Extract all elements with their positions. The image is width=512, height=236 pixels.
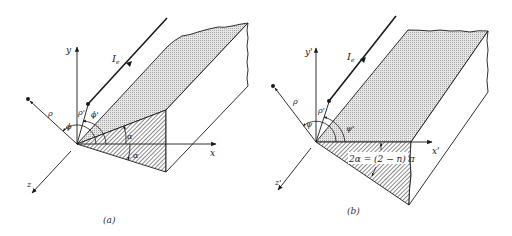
panel-a: y x z ρ ρ' ϕ ϕ' α α Ie (a) — [26, 18, 248, 225]
caption-a: (a) — [103, 215, 116, 225]
z-prime-axis-label: z' — [274, 178, 281, 187]
caption-b: (b) — [347, 206, 360, 216]
observation-point — [271, 84, 275, 88]
z-prime-axis — [278, 148, 311, 190]
phi-label: ϕ — [66, 122, 72, 131]
alpha-bottom-label: α — [133, 151, 139, 160]
rho-label: ρ — [47, 109, 53, 118]
source-current-label: Ie — [346, 51, 355, 63]
rho-label: ρ — [292, 97, 298, 106]
x-axis-label: x — [210, 148, 215, 158]
rho-prime-label: ρ' — [317, 106, 325, 115]
wedge-front-face — [316, 142, 411, 205]
source-current-label: Ie — [111, 53, 120, 65]
alpha-top-label: α — [127, 132, 133, 141]
observation-point — [26, 97, 30, 101]
psi-prime-label: ψ' — [346, 124, 354, 133]
phi-prime-label: ϕ' — [91, 110, 99, 119]
wedge-diffraction-figure: y x z ρ ρ' ϕ ϕ' α α Ie (a) — [0, 0, 512, 236]
y-prime-axis-label: y' — [304, 47, 313, 57]
rho-prime-label: ρ' — [77, 108, 85, 117]
panel-b: y' x' z' ρ ρ' ψ ψ' 2α = (2 − n) π Ie (b) — [271, 16, 488, 216]
wedge-angle-label: 2α = (2 − n) π — [348, 154, 416, 164]
y-axis-label: y — [65, 45, 72, 55]
z-axis-label: z — [26, 180, 32, 189]
x-prime-axis-label: x' — [432, 146, 440, 156]
z-axis — [32, 151, 71, 193]
psi-label: ψ — [306, 120, 313, 129]
